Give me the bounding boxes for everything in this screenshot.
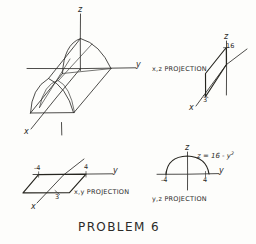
xz-projection-caption: x,z PROJECTION	[152, 66, 207, 73]
main-figure-solid	[31, 39, 112, 114]
worksheet-page: z y x x,z PROJECTION z 16 3 x x,y PROJEC…	[0, 0, 256, 244]
page-title: PROBLEM 6	[78, 221, 160, 233]
yz-projection-y-pos-tick: 4	[203, 177, 207, 184]
main-figure-x-label: x	[24, 128, 29, 136]
xy-projection-y-label: y	[113, 167, 118, 175]
yz-projection-y-label: y	[219, 167, 224, 175]
drawing-layer	[0, 0, 256, 244]
main-figure-y-label: y	[136, 61, 141, 69]
main-figure-z-label: z	[78, 6, 82, 14]
yz-equation-exponent: 2	[231, 151, 234, 156]
yz-equation-lhs: z = 16 - y	[197, 152, 231, 160]
xz-projection-x-label: x	[189, 104, 194, 112]
xy-projection-y-pos-tick: 4	[84, 164, 88, 171]
xy-projection-y-neg-tick: -4	[34, 165, 40, 172]
xy-projection-x-tick: 3	[55, 194, 59, 201]
xz-projection-x-tick: 3	[203, 97, 207, 104]
yz-projection-y-neg-tick: -4	[161, 177, 167, 184]
xy-projection-caption: x,y PROJECTION	[74, 189, 129, 196]
yz-projection-equation: z = 16 - y2	[197, 152, 234, 160]
xz-projection-z-tick: 16	[226, 43, 234, 50]
yz-projection-caption: y,z PROJECTION	[152, 196, 207, 203]
yz-projection-z-label: z	[185, 144, 189, 152]
xy-projection-x-label: x	[31, 203, 36, 211]
xz-projection-z-label: z	[224, 33, 228, 41]
